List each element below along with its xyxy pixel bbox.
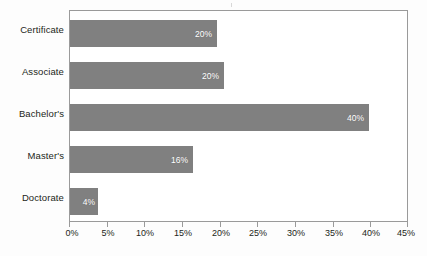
bar-value-certificate: 20% — [195, 29, 212, 38]
y-axis-label-certificate: Certificate — [0, 25, 64, 35]
x-tick-label-30: 30% — [287, 229, 305, 238]
x-tick-label-10: 10% — [136, 229, 154, 238]
x-tick-label-20: 20% — [212, 229, 230, 238]
y-axis-label-doctorate: Doctorate — [0, 193, 64, 203]
x-tick-35 — [333, 222, 334, 227]
x-tick-30 — [295, 222, 296, 227]
bar-value-masters: 16% — [171, 155, 188, 164]
x-tick-label-15: 15% — [174, 229, 192, 238]
bar-row-certificate[interactable]: 20% — [70, 20, 217, 47]
x-tick-label-5: 5% — [101, 229, 114, 238]
x-tick-label-40: 40% — [362, 229, 380, 238]
x-tick-label-25: 25% — [249, 229, 267, 238]
x-tick-40 — [370, 222, 371, 227]
y-axis-label-associate: Associate — [0, 67, 64, 77]
x-tick-45 — [407, 222, 408, 227]
y-axis-label-bachelors: Bachelor's — [0, 109, 64, 119]
bar-doctorate[interactable]: 4% — [70, 188, 98, 215]
x-tick-15 — [182, 222, 183, 227]
x-tick-20 — [220, 222, 221, 227]
bars-layer: 20% 20% 40% 16% 4% — [70, 11, 407, 221]
bar-certificate[interactable]: 20% — [70, 20, 217, 47]
x-tick-label-0: 0% — [65, 229, 78, 238]
y-axis-label-masters: Master's — [0, 151, 64, 161]
x-tick-5 — [107, 222, 108, 227]
bar-row-doctorate[interactable]: 4% — [70, 188, 98, 215]
x-tick-10 — [144, 222, 145, 227]
x-tick-25 — [257, 222, 258, 227]
x-axis: 0% 5% 10% 15% 20% 25% 30% 35% 40% 45% — [69, 222, 408, 256]
x-tick-0 — [69, 222, 70, 227]
x-tick-label-35: 35% — [325, 229, 343, 238]
bar-associate[interactable]: 20% — [70, 62, 224, 89]
bar-chart-figure: Certificate Associate Bachelor's Master'… — [0, 0, 427, 256]
x-tick-label-45: 45% — [397, 229, 415, 238]
bar-row-bachelors[interactable]: 40% — [70, 104, 369, 131]
plot-area: 20% 20% 40% 16% 4% — [69, 10, 408, 222]
scan-artifact-speck — [231, 3, 232, 7]
bar-value-doctorate: 4% — [83, 197, 95, 206]
bar-value-associate: 20% — [202, 71, 219, 80]
bar-value-bachelors: 40% — [347, 113, 364, 122]
bar-row-masters[interactable]: 16% — [70, 146, 193, 173]
bar-masters[interactable]: 16% — [70, 146, 193, 173]
bar-bachelors[interactable]: 40% — [70, 104, 369, 131]
bar-row-associate[interactable]: 20% — [70, 62, 224, 89]
y-axis-category-labels: Certificate Associate Bachelor's Master'… — [0, 10, 64, 222]
